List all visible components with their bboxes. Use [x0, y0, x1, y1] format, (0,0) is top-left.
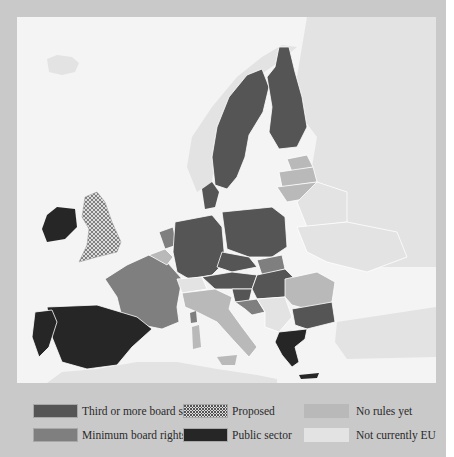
map-svg [17, 17, 436, 383]
swatch-third-seats [33, 404, 78, 418]
legend-item-no-rules: No rules yet [304, 403, 412, 419]
map-legend: Third or more board seats Proposed No ru… [0, 395, 446, 455]
swatch-not-eu [304, 428, 349, 442]
figure-panel: Third or more board seats Proposed No ru… [0, 0, 446, 457]
legend-item-minimum-rights: Minimum board rights [33, 427, 186, 443]
legend-item-public-sector: Public sector [183, 427, 292, 443]
legend-label: No rules yet [356, 405, 412, 417]
swatch-proposed [183, 404, 228, 418]
country-corsica [190, 311, 197, 323]
legend-item-proposed: Proposed [183, 403, 275, 419]
legend-item-not-eu: Not currently EU [304, 427, 436, 443]
legend-label: Proposed [232, 405, 275, 417]
country-poland [222, 207, 287, 257]
legend-item-third-seats: Third or more board seats [33, 403, 201, 419]
swatch-public-sector [183, 428, 228, 442]
europe-map [17, 17, 436, 383]
country-germany [173, 215, 225, 279]
swatch-minimum-rights [33, 428, 78, 442]
legend-label: Minimum board rights [82, 429, 186, 441]
swatch-no-rules [304, 404, 349, 418]
legend-label: Not currently EU [356, 429, 436, 441]
legend-label: Public sector [232, 429, 292, 441]
